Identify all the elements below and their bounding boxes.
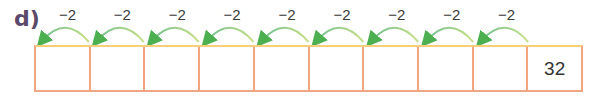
jump-arrow [207, 28, 254, 42]
step-label: −2 [443, 6, 460, 23]
step-label: −2 [59, 6, 76, 23]
step-label: −2 [169, 6, 186, 23]
strip-cell-5[interactable] [255, 47, 310, 90]
number-strip: 32 [34, 45, 583, 92]
strip-cell-6[interactable] [310, 47, 365, 90]
jump-arrow [371, 28, 418, 42]
step-label: −2 [114, 6, 131, 23]
jump-arrow [152, 28, 199, 42]
step-label: −2 [388, 6, 405, 23]
step-label: −2 [224, 6, 241, 23]
strip-cell-3[interactable] [145, 47, 200, 90]
strip-cell-1[interactable] [36, 47, 91, 90]
jump-arrow [481, 28, 528, 42]
strip-cell-7[interactable] [364, 47, 419, 90]
jump-arrows: −2−2−2−2−2−2−2−2−2 [0, 0, 590, 50]
strip-cell-9[interactable] [474, 47, 529, 90]
jump-arrow [426, 28, 473, 42]
strip-cell-2[interactable] [91, 47, 146, 90]
jump-arrow [97, 28, 144, 42]
jump-arrow [42, 28, 89, 42]
jump-arrow [317, 28, 364, 42]
step-label: −2 [278, 6, 295, 23]
strip-cell-4[interactable] [200, 47, 255, 90]
strip-cell-8[interactable] [419, 47, 474, 90]
strip-cell-10: 32 [528, 47, 581, 90]
step-label: −2 [498, 6, 515, 23]
jump-arrow [262, 28, 309, 42]
step-label: −2 [333, 6, 350, 23]
